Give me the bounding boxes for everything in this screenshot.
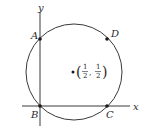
x-axis-label: x — [133, 101, 139, 112]
y-axis-label: y — [37, 2, 44, 13]
y-denominator: 2 — [96, 72, 100, 80]
point-a — [38, 37, 42, 41]
point-d — [105, 37, 109, 41]
point-c — [105, 104, 109, 108]
geometry-diagram: y x A D B C ( 1 2 , 1 2 ) — [0, 0, 162, 130]
label-b: B — [30, 109, 38, 120]
label-a: A — [30, 30, 38, 41]
center-point — [72, 71, 75, 74]
comma: , — [89, 68, 92, 77]
open-paren: ( — [76, 64, 81, 80]
point-b — [38, 104, 42, 108]
x-numerator: 1 — [83, 63, 87, 71]
label-d: D — [110, 28, 119, 39]
x-denominator: 2 — [83, 72, 87, 80]
label-c: C — [106, 109, 114, 120]
center-coordinate-label: ( 1 2 , 1 2 ) — [76, 63, 107, 80]
y-numerator: 1 — [96, 63, 100, 71]
close-paren: ) — [102, 64, 107, 80]
